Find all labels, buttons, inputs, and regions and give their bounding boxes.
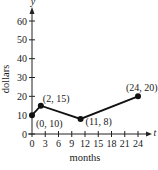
- y-tick-label: 10: [17, 110, 27, 121]
- x-tick-label: 15: [93, 138, 103, 149]
- point-annotation: (2, 15): [43, 93, 70, 105]
- point-annotation: (24, 20): [126, 82, 158, 94]
- point-annotation: (0, 10): [36, 118, 63, 130]
- y-tick-label: 20: [17, 91, 27, 102]
- x-axis-variable: t: [154, 127, 157, 138]
- y-tick-label: 40: [17, 53, 27, 64]
- y-axis-label: dollars: [0, 65, 11, 94]
- x-tick-label: 9: [69, 138, 74, 149]
- x-tick-label: 18: [107, 138, 117, 149]
- line-chart: 010203040506003691215182124 (0, 10)(2, 1…: [0, 0, 158, 170]
- x-tick-label: 6: [56, 138, 61, 149]
- x-tick-label: 0: [30, 138, 35, 149]
- data-series: (0, 10)(2, 15)(11, 8)(24, 20): [29, 82, 158, 130]
- x-tick-label: 12: [80, 138, 90, 149]
- point-annotation: (11, 8): [86, 116, 112, 128]
- x-tick-label: 21: [120, 138, 130, 149]
- data-point: [29, 112, 35, 118]
- data-point: [135, 93, 141, 99]
- x-tick-label: 3: [43, 138, 48, 149]
- x-axis-arrow-icon: [146, 132, 152, 137]
- y-axis-variable: y: [30, 0, 36, 7]
- x-tick-label: 24: [133, 138, 143, 149]
- y-tick-label: 30: [17, 72, 27, 83]
- y-tick-label: 0: [22, 129, 27, 140]
- data-point: [78, 116, 84, 122]
- y-tick-label: 60: [17, 16, 27, 27]
- y-tick-label: 50: [17, 34, 27, 45]
- x-axis-label: months: [70, 152, 101, 163]
- y-axis-arrow-icon: [30, 7, 35, 14]
